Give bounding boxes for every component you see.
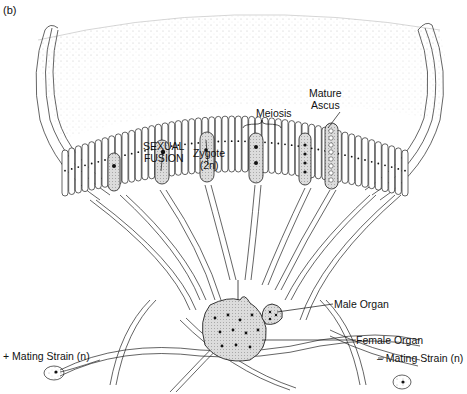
label-sexual-fusion: SEXUAL FUSION	[143, 140, 184, 164]
label-zygote-line2: (2n)	[193, 159, 225, 171]
label-mature-ascus-line1: Mature	[309, 87, 342, 99]
ascocarp-diagram: (b) SEXUAL FUSION Zygote (2n) Meiosis Ma…	[0, 0, 467, 394]
label-sexual-fusion-line2: FUSION	[143, 152, 184, 164]
plus-strain-hypha	[44, 360, 100, 380]
female-organ	[202, 280, 266, 361]
label-meiosis: Meiosis	[256, 107, 292, 119]
label-minus-mating-strain: – Mating Strain (n)	[377, 352, 463, 364]
male-organ	[262, 304, 282, 324]
label-female-organ: Female Organ	[356, 334, 423, 346]
label-zygote-line1: Zygote	[193, 147, 225, 159]
label-plus-mating-strain: + Mating Strain (n)	[3, 350, 90, 362]
label-mature-ascus-line2: Ascus	[309, 99, 342, 111]
panel-label: (b)	[3, 4, 16, 16]
minus-strain-hypha	[393, 375, 411, 389]
label-mature-ascus: Mature Ascus	[309, 87, 342, 111]
label-sexual-fusion-line1: SEXUAL	[143, 140, 184, 152]
label-male-organ: Male Organ	[334, 298, 389, 310]
label-zygote: Zygote (2n)	[193, 147, 225, 171]
